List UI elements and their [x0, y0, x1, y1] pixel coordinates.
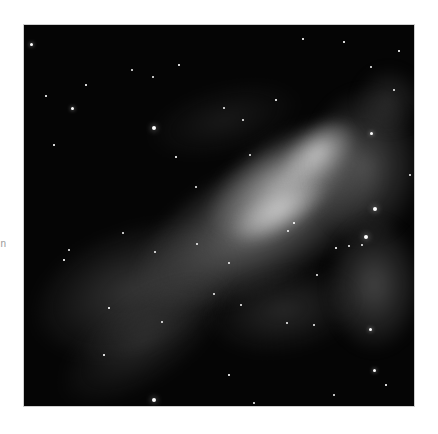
- star: [385, 384, 387, 386]
- star: [154, 251, 156, 253]
- star: [240, 304, 242, 306]
- star: [286, 322, 288, 324]
- star: [85, 84, 87, 86]
- star: [242, 119, 244, 121]
- star: [223, 107, 225, 109]
- star: [253, 402, 255, 404]
- star: [373, 369, 376, 372]
- star: [333, 394, 335, 396]
- star: [393, 89, 395, 91]
- star: [45, 95, 47, 97]
- star: [409, 174, 411, 176]
- star: [293, 222, 295, 224]
- star: [30, 43, 33, 46]
- star: [343, 41, 345, 43]
- star: [287, 230, 289, 232]
- star: [316, 274, 318, 276]
- nebula-photo: [24, 25, 414, 406]
- star: [131, 69, 133, 71]
- star: [152, 76, 154, 78]
- star: [369, 328, 372, 331]
- star: [370, 66, 372, 68]
- clipped-edge-text: n: [0, 238, 6, 249]
- star: [275, 99, 277, 101]
- star: [152, 126, 156, 130]
- star: [361, 244, 363, 246]
- star: [175, 156, 177, 158]
- star: [348, 245, 350, 247]
- star: [373, 207, 377, 211]
- star: [108, 307, 110, 309]
- star: [53, 144, 55, 146]
- star: [398, 50, 400, 52]
- star: [313, 324, 315, 326]
- star: [370, 132, 373, 135]
- star: [152, 398, 156, 402]
- star: [249, 154, 251, 156]
- star: [63, 259, 65, 261]
- star: [178, 64, 180, 66]
- star: [71, 107, 74, 110]
- star: [103, 354, 105, 356]
- star: [302, 38, 304, 40]
- star: [335, 247, 337, 249]
- star: [228, 374, 230, 376]
- star: [68, 249, 70, 251]
